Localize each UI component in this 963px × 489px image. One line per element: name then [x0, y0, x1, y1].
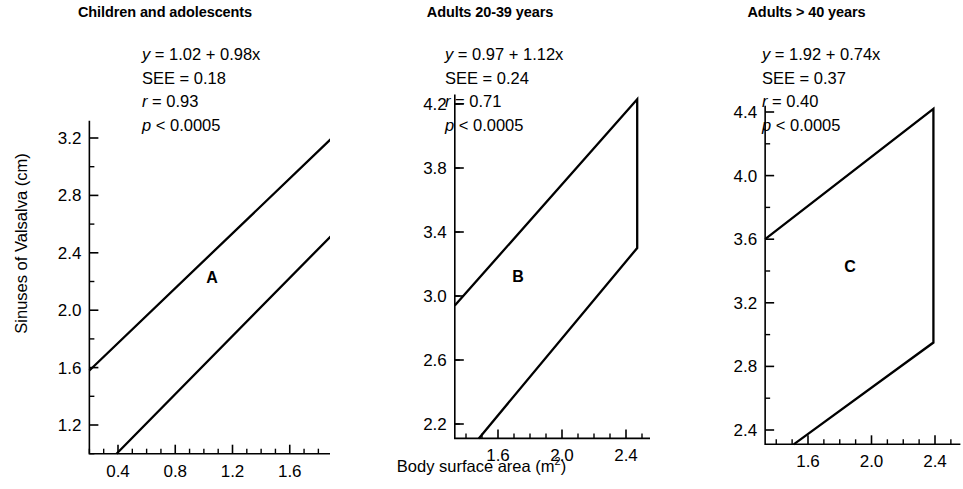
- panel-b-plot: 2.22.63.03.43.84.21.62.02.4By = 0.97 + 1…: [330, 0, 650, 489]
- panel-c-plot: 2.42.83.23.64.04.41.62.02.4Cy = 1.92 + 0…: [650, 0, 963, 489]
- y-tick-label: 3.4: [423, 223, 447, 242]
- stat-r: r = 0.93: [142, 92, 198, 110]
- figure-root: Children and adolescents 1.21.62.02.42.8…: [0, 0, 963, 489]
- panel-letter: C: [844, 258, 856, 275]
- y-tick-label: 4.2: [423, 95, 447, 114]
- stat-p: p < 0.0005: [444, 116, 523, 134]
- y-tick-label: 2.8: [58, 186, 82, 205]
- stat-equation: y = 1.02 + 0.98x: [141, 45, 261, 63]
- y-tick-label: 3.2: [58, 129, 82, 148]
- stat-p: p < 0.0005: [761, 116, 840, 134]
- stat-see: SEE = 0.24: [445, 69, 529, 87]
- panel-b: Adults 20-39 years 2.22.63.03.43.84.21.6…: [330, 0, 650, 489]
- y-tick-label: 3.6: [733, 230, 757, 249]
- y-tick-label: 4.0: [733, 167, 757, 186]
- regression-band: [765, 109, 933, 444]
- y-tick-label: 3.2: [733, 294, 757, 313]
- stat-equation: y = 1.92 + 0.74x: [761, 45, 881, 63]
- panel-a: Children and adolescents 1.21.62.02.42.8…: [0, 0, 330, 489]
- panel-c: Adults > 40 years 2.42.83.23.64.04.41.62…: [650, 0, 963, 489]
- stat-equation: y = 0.97 + 1.12x: [444, 45, 564, 63]
- panel-letter: B: [512, 268, 524, 285]
- x-axis-title-main: Body surface area (m: [397, 457, 555, 475]
- stat-see: SEE = 0.37: [762, 69, 846, 87]
- panel-letter: A: [206, 269, 218, 286]
- y-tick-label: 2.8: [733, 357, 757, 376]
- y-tick-label: 3.0: [423, 287, 447, 306]
- x-axis-title: Body surface area (m2): [0, 455, 963, 476]
- regression-band: [455, 99, 637, 438]
- y-tick-label: 1.6: [58, 359, 82, 378]
- stat-r: r = 0.71: [445, 92, 501, 110]
- y-tick-label: 2.4: [733, 421, 757, 440]
- y-tick-label: 1.2: [58, 416, 82, 435]
- y-tick-label: 2.2: [423, 415, 447, 434]
- y-tick-label: 3.8: [423, 159, 447, 178]
- regression-band: [89, 124, 330, 454]
- y-tick-label: 2.0: [58, 301, 82, 320]
- stat-p: p < 0.0005: [141, 116, 220, 134]
- panel-a-plot: 1.21.62.02.42.83.20.40.81.21.62.0Ay = 1.…: [0, 0, 330, 489]
- y-axis-title: Sinuses of Valsalva (cm): [12, 104, 31, 384]
- y-tick-label: 4.4: [733, 103, 757, 122]
- x-axis-title-close: ): [561, 457, 567, 475]
- stat-see: SEE = 0.18: [142, 69, 226, 87]
- y-tick-label: 2.6: [423, 351, 447, 370]
- y-tick-label: 2.4: [58, 244, 82, 263]
- stat-r: r = 0.40: [762, 92, 818, 110]
